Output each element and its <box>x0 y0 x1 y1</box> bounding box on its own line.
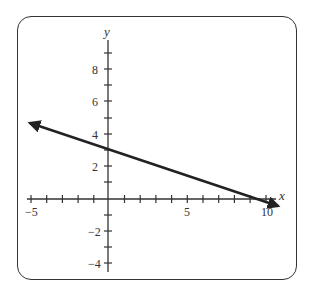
x-tick-label: 10 <box>261 205 273 219</box>
y-axis-label: y <box>102 24 110 39</box>
y-tick-label: 8 <box>92 63 98 77</box>
plotted-line <box>30 123 278 206</box>
y-tick-label: −2 <box>88 225 101 239</box>
x-axis-label: x <box>278 188 285 203</box>
coordinate-plane: y x −5 5 10 8 6 4 2 −2 −4 <box>0 0 312 295</box>
y-tick-label: 6 <box>92 95 98 109</box>
x-tick-label: −5 <box>25 205 38 219</box>
y-tick-label: 4 <box>92 128 98 142</box>
y-tick-label: −4 <box>88 257 101 271</box>
y-tick-label: 2 <box>92 160 98 174</box>
x-tick-label: 5 <box>184 205 190 219</box>
